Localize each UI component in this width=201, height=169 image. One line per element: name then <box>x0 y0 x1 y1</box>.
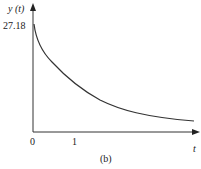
x-axis-label: t <box>193 143 196 154</box>
decay-chart: y (t) 27.18 0 1 t (b) <box>0 0 201 169</box>
x-tick-one: 1 <box>72 136 77 147</box>
figure-caption: (b) <box>100 153 112 165</box>
y-tick-label: 27.18 <box>3 20 26 31</box>
x-tick-zero: 0 <box>30 136 35 147</box>
y-axis-label: y (t) <box>7 3 25 15</box>
y-axis-arrow-icon <box>30 3 36 11</box>
x-axis-arrow-icon <box>192 129 200 135</box>
decay-curve <box>34 24 194 121</box>
